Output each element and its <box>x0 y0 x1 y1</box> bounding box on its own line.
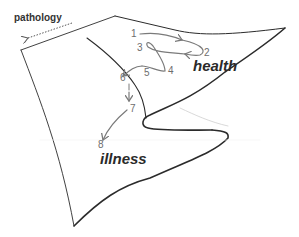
point-label-3: 3 <box>137 43 143 53</box>
catastrophe-surface-diagram: pathology 1 2 3 4 5 6 7 8 health illness <box>0 0 299 237</box>
pathology-label: pathology <box>14 13 62 23</box>
point-label-6: 6 <box>120 73 126 83</box>
illness-region-label: illness <box>100 151 147 166</box>
point-label-7: 7 <box>130 104 136 114</box>
point-label-4: 4 <box>168 66 174 76</box>
point-label-5: 5 <box>144 68 150 78</box>
point-label-8: 8 <box>98 140 104 150</box>
health-region-label: health <box>193 58 237 73</box>
point-label-1: 1 <box>131 29 137 39</box>
